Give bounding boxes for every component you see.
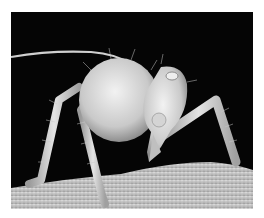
micrograph-image bbox=[11, 12, 253, 209]
insect-illustration bbox=[11, 12, 253, 209]
leg-joint bbox=[152, 113, 166, 127]
leg-back-left bbox=[29, 87, 79, 184]
eye bbox=[166, 72, 178, 80]
